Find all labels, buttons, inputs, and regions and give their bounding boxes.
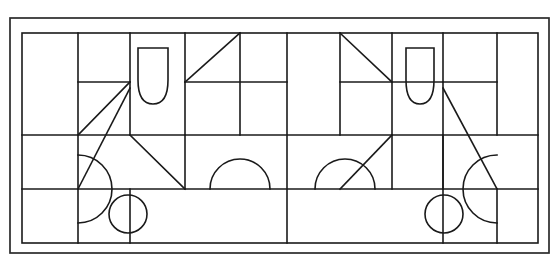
figure-canvas xyxy=(0,0,559,257)
geometric-line-drawing xyxy=(0,0,559,257)
